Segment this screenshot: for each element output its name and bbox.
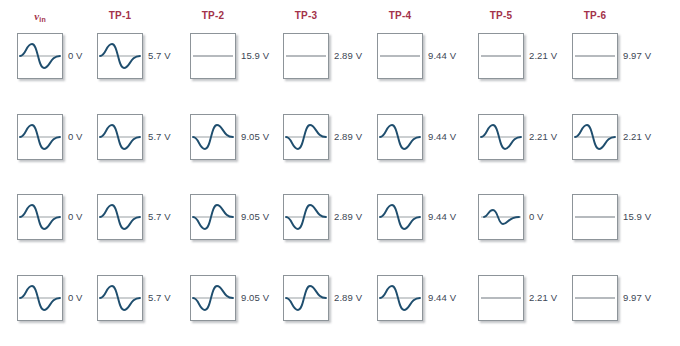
- voltage-label: 9.44 V: [428, 50, 456, 61]
- column-header-tp6: TP-6: [565, 10, 625, 21]
- waveform-sine: [98, 276, 142, 320]
- scope-display: [97, 275, 143, 321]
- voltage-label: 5.7 V: [148, 50, 171, 61]
- scope-cell-tp4-row3: 9.44 V: [377, 194, 423, 240]
- waveform-sine: [18, 195, 62, 239]
- scope-display: [377, 33, 423, 79]
- scope-cell-tp6-row4: 9.97 V: [572, 275, 618, 321]
- column-header-label: TP-5: [490, 10, 512, 21]
- scope-display: [190, 194, 236, 240]
- voltage-label: 9.97 V: [623, 50, 651, 61]
- waveform-flat: [573, 34, 617, 78]
- scope-cell-tp3-row3: 2.89 V: [283, 194, 329, 240]
- voltage-label: 2.89 V: [334, 292, 362, 303]
- scope-cell-tp3-row4: 2.89 V: [283, 275, 329, 321]
- scope-cell-tp4-row4: 9.44 V: [377, 275, 423, 321]
- scope-display: [97, 194, 143, 240]
- scope-cell-tp6-row3: 15.9 V: [572, 194, 618, 240]
- scope-display: [478, 194, 524, 240]
- scope-cell-tp2-row2: 9.05 V: [190, 114, 236, 160]
- scope-cell-tp3-row1: 2.89 V: [283, 33, 329, 79]
- waveform-sine: [18, 115, 62, 159]
- scope-cell-vin-row1: 0 V: [17, 33, 63, 79]
- scope-display: [190, 33, 236, 79]
- waveform-sine-inverted: [191, 276, 235, 320]
- voltage-label: 2.89 V: [334, 50, 362, 61]
- waveform-sine-inverted: [284, 195, 328, 239]
- column-header-tp5: TP-5: [471, 10, 531, 21]
- voltage-label: 0 V: [68, 50, 83, 61]
- scope-cell-tp5-row1: 2.21 V: [478, 33, 524, 79]
- waveform-sine: [573, 115, 617, 159]
- waveform-flat: [573, 195, 617, 239]
- waveform-flat: [284, 34, 328, 78]
- waveform-sine: [18, 34, 62, 78]
- voltage-label: 9.05 V: [241, 211, 269, 222]
- voltage-label: 5.7 V: [148, 131, 171, 142]
- scope-cell-tp1-row3: 5.7 V: [97, 194, 143, 240]
- scope-cell-vin-row2: 0 V: [17, 114, 63, 160]
- waveform-sine-small: [479, 195, 523, 239]
- scope-display: [377, 194, 423, 240]
- column-header-label: TP-3: [295, 10, 317, 21]
- waveform-sine: [378, 276, 422, 320]
- scope-display: [478, 33, 524, 79]
- scope-display: [97, 33, 143, 79]
- scope-cell-tp2-row1: 15.9 V: [190, 33, 236, 79]
- scope-display: [17, 114, 63, 160]
- column-header-label: TP-2: [202, 10, 224, 21]
- waveform-sine-inverted: [284, 276, 328, 320]
- scope-display: [478, 114, 524, 160]
- column-header-tp3: TP-3: [276, 10, 336, 21]
- waveform-flat: [479, 276, 523, 320]
- waveform-sine: [479, 115, 523, 159]
- scope-cell-tp4-row2: 9.44 V: [377, 114, 423, 160]
- scope-display: [377, 275, 423, 321]
- scope-display: [283, 194, 329, 240]
- voltage-label: 0 V: [529, 211, 544, 222]
- scope-cell-tp6-row1: 9.97 V: [572, 33, 618, 79]
- column-header-vin: vin: [10, 10, 70, 22]
- scope-display: [283, 33, 329, 79]
- waveform-sine-inverted: [191, 195, 235, 239]
- scope-display: [377, 114, 423, 160]
- voltage-label: 5.7 V: [148, 211, 171, 222]
- voltage-label: 0 V: [68, 211, 83, 222]
- voltage-label: 9.44 V: [428, 131, 456, 142]
- scope-display: [572, 194, 618, 240]
- scope-cell-tp2-row4: 9.05 V: [190, 275, 236, 321]
- scope-display: [190, 275, 236, 321]
- waveform-flat: [479, 34, 523, 78]
- scope-display: [478, 275, 524, 321]
- column-header-tp1: TP-1: [90, 10, 150, 21]
- scope-display: [283, 114, 329, 160]
- column-header-label: TP-6: [584, 10, 606, 21]
- waveform-flat: [378, 34, 422, 78]
- waveform-sine: [98, 195, 142, 239]
- scope-cell-tp5-row3: 0 V: [478, 194, 524, 240]
- scope-cell-tp1-row1: 5.7 V: [97, 33, 143, 79]
- voltage-label: 9.05 V: [241, 131, 269, 142]
- scope-cell-tp5-row2: 2.21 V: [478, 114, 524, 160]
- waveform-sine-inverted: [284, 115, 328, 159]
- waveform-sine: [98, 115, 142, 159]
- waveform-sine: [378, 195, 422, 239]
- voltage-label: 15.9 V: [241, 50, 269, 61]
- scope-display: [17, 194, 63, 240]
- scope-cell-tp2-row3: 9.05 V: [190, 194, 236, 240]
- scope-display: [17, 275, 63, 321]
- voltage-label: 2.89 V: [334, 131, 362, 142]
- voltage-label: 9.05 V: [241, 292, 269, 303]
- column-header-subscript: in: [39, 16, 46, 23]
- voltage-label: 0 V: [68, 292, 83, 303]
- scope-cell-vin-row3: 0 V: [17, 194, 63, 240]
- scope-display: [572, 114, 618, 160]
- column-header-label: TP-4: [389, 10, 411, 21]
- column-header-tp4: TP-4: [370, 10, 430, 21]
- column-header-tp2: TP-2: [183, 10, 243, 21]
- scope-display: [283, 275, 329, 321]
- voltage-label: 2.89 V: [334, 211, 362, 222]
- waveform-sine: [98, 34, 142, 78]
- voltage-label: 2.21 V: [529, 292, 557, 303]
- waveform-flat: [573, 276, 617, 320]
